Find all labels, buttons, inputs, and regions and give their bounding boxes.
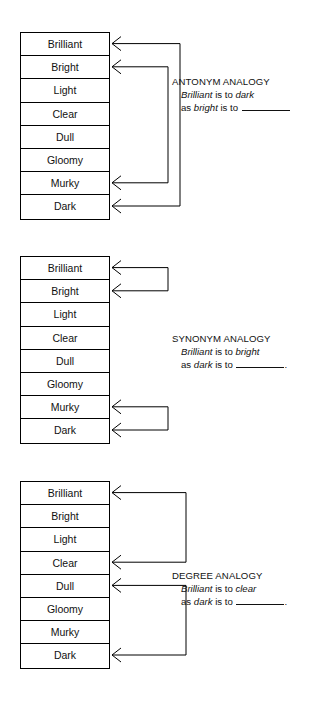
word-cell: Dark (21, 195, 109, 218)
word-cell: Dull (21, 350, 109, 373)
caption-connector-1: is to (212, 346, 235, 357)
word-cell: Gloomy (21, 149, 109, 172)
word-cell: Clear (21, 327, 109, 350)
caption-term-a: Brilliant (181, 89, 212, 100)
arrowhead (112, 261, 121, 275)
word-ladder-antonym: BrilliantBrightLightClearDullGloomyMurky… (20, 32, 110, 220)
word-cell: Murky (21, 172, 109, 195)
caption-line-1: Brilliant is to clear (172, 583, 287, 596)
caption-line-1: Brilliant is to bright (172, 346, 287, 359)
caption-term-b: bright (235, 346, 259, 357)
word-cell: Dark (21, 419, 109, 442)
arrowhead (112, 486, 121, 500)
caption-connector-2: is to (218, 102, 241, 113)
word-cell: Murky (21, 621, 109, 644)
caption-term-c: dark (194, 359, 213, 370)
caption-degree: DEGREE ANALOGYBrilliant is to clearas da… (172, 570, 287, 609)
arrowhead (112, 555, 121, 569)
arrowhead (112, 60, 121, 74)
word-cell: Bright (21, 505, 109, 528)
arrowhead (112, 578, 121, 592)
caption-term-a: Brilliant (181, 583, 212, 594)
word-cell: Light (21, 79, 109, 102)
caption-title: ANTONYM ANALOGY (172, 76, 290, 89)
word-cell: Brilliant (21, 482, 109, 505)
word-cell: Dull (21, 575, 109, 598)
answer-blank[interactable] (236, 595, 284, 605)
word-cell: Dark (21, 644, 109, 667)
caption-title: DEGREE ANALOGY (172, 570, 287, 583)
word-cell: Clear (21, 103, 109, 126)
word-cell: Bright (21, 280, 109, 303)
caption-term-b: clear (235, 583, 256, 594)
arrow-brilliant-to-dark (112, 37, 180, 213)
arrowhead (112, 400, 121, 414)
caption-suffix-2: . (284, 596, 287, 607)
caption-suffix-2: . (284, 359, 287, 370)
arrowhead (112, 423, 121, 437)
word-cell: Brilliant (21, 257, 109, 280)
answer-blank[interactable] (236, 358, 284, 368)
arrowhead (112, 284, 121, 298)
arrow-brilliant-to-bright (112, 261, 168, 298)
caption-term-a: Brilliant (181, 346, 212, 357)
arrow-layer-antonym (110, 27, 194, 223)
arrowhead (112, 199, 121, 213)
arrow-bright-to-murky (112, 60, 168, 190)
arrow-brilliant-to-clear (112, 486, 186, 570)
caption-connector-1: is to (212, 583, 235, 594)
caption-line-1: Brilliant is to dark (172, 89, 290, 102)
caption-prefix-2: as (181, 596, 194, 607)
caption-line-2: as dark is to . (172, 595, 287, 609)
caption-connector-2: is to (212, 359, 235, 370)
caption-term-b: dark (235, 89, 254, 100)
caption-term-c: bright (194, 102, 218, 113)
word-cell: Light (21, 303, 109, 326)
word-cell: Light (21, 528, 109, 551)
word-cell: Bright (21, 56, 109, 79)
caption-line-2: as bright is to (172, 101, 290, 115)
caption-prefix-2: as (181, 359, 194, 370)
arrowhead (112, 37, 121, 51)
word-ladder-synonym: BrilliantBrightLightClearDullGloomyMurky… (20, 256, 110, 444)
word-cell: Dull (21, 126, 109, 149)
arrowhead (112, 176, 121, 190)
word-cell: Clear (21, 552, 109, 575)
word-cell: Gloomy (21, 373, 109, 396)
caption-line-2: as dark is to . (172, 358, 287, 372)
caption-connector-1: is to (212, 89, 235, 100)
caption-synonym: SYNONYM ANALOGYBrilliant is to brightas … (172, 333, 287, 372)
caption-title: SYNONYM ANALOGY (172, 333, 287, 346)
caption-connector-2: is to (212, 596, 235, 607)
word-ladder-degree: BrilliantBrightLightClearDullGloomyMurky… (20, 481, 110, 669)
caption-prefix-2: as (181, 102, 194, 113)
answer-blank[interactable] (242, 101, 290, 111)
word-cell: Murky (21, 396, 109, 419)
arrowhead (112, 648, 121, 662)
arrow-murky-to-dark (112, 400, 168, 437)
caption-antonym: ANTONYM ANALOGYBrilliant is to darkas br… (172, 76, 290, 115)
caption-term-c: dark (194, 596, 213, 607)
word-cell: Brilliant (21, 33, 109, 56)
word-cell: Gloomy (21, 598, 109, 621)
